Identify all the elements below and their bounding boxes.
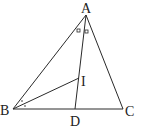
label-d: D [70, 114, 80, 129]
segment-bi [13, 78, 79, 109]
angle-mark-ibd-icon [24, 105, 26, 107]
segment-ac [86, 15, 123, 109]
triangle-diagram: A B C D I [0, 0, 143, 133]
label-b: B [0, 103, 9, 118]
angle-mark-bad-icon [77, 29, 80, 32]
segment-ab [13, 15, 86, 109]
angle-mark-dac-icon [85, 30, 88, 33]
label-c: C [125, 104, 134, 119]
label-a: A [81, 1, 92, 16]
label-i: I [81, 74, 86, 89]
angle-mark-abi-icon [21, 100, 23, 102]
